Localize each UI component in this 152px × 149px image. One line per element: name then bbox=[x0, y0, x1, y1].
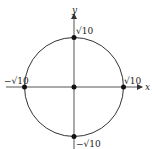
x-axis-label: x bbox=[145, 82, 150, 92]
point-origin bbox=[72, 85, 77, 90]
label-top: √10 bbox=[76, 26, 93, 36]
label-bottom: −√10 bbox=[76, 139, 101, 149]
coordinate-diagram: y x √10 √10 −√10 −√10 bbox=[0, 0, 152, 149]
label-left: −√10 bbox=[4, 76, 29, 86]
y-axis-label: y bbox=[71, 5, 78, 15]
label-right: √10 bbox=[124, 76, 141, 86]
